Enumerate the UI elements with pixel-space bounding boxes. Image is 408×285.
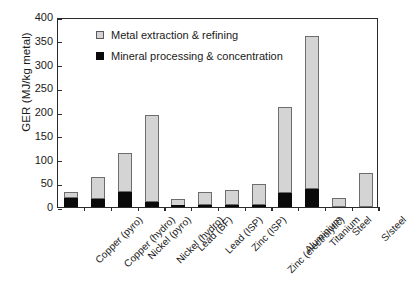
- legend-label-metal-extraction: Metal extraction & refining: [111, 29, 238, 41]
- y-tick-label: 150: [35, 130, 53, 142]
- y-tick-label: 400: [35, 11, 53, 23]
- x-tick-mark: [84, 207, 85, 211]
- y-tick-mark: [58, 209, 62, 210]
- y-tick-mark: [58, 66, 62, 67]
- bar-segment-metal-extraction: [198, 192, 212, 205]
- bar-segment-metal-extraction: [359, 173, 373, 207]
- bar-segment-metal-extraction: [145, 115, 159, 202]
- bar: [118, 153, 132, 207]
- plot-area: 050100150200250300350400 Metal extractio…: [57, 18, 378, 208]
- bar: [332, 198, 346, 207]
- bar-segment-metal-extraction: [332, 198, 346, 207]
- y-tick-label: 350: [35, 35, 53, 47]
- y-tick-mark: [58, 114, 62, 115]
- bar: [145, 115, 159, 207]
- x-tick-mark: [138, 207, 139, 211]
- y-tick-mark: [58, 185, 62, 186]
- y-tick-label: 250: [35, 82, 53, 94]
- bar: [91, 177, 105, 207]
- bar: [64, 192, 78, 207]
- bar: [171, 199, 185, 207]
- y-tick-mark: [58, 90, 62, 91]
- bar-segment-metal-extraction: [118, 153, 132, 192]
- x-tick-mark: [245, 207, 246, 211]
- bar-segment-metal-extraction: [278, 107, 292, 193]
- bar-segment-mineral-processing: [252, 205, 266, 207]
- x-tick-mark: [218, 207, 219, 211]
- bar-segment-mineral-processing: [145, 202, 159, 207]
- legend-item: Mineral processing & concentration: [96, 50, 283, 62]
- y-tick-mark: [58, 42, 62, 43]
- legend-swatch-mineral-processing-icon: [96, 52, 104, 60]
- bar-segment-metal-extraction: [225, 190, 239, 205]
- x-axis-label: S/steel: [379, 214, 408, 243]
- bar: [359, 173, 373, 207]
- legend-label-mineral-processing: Mineral processing & concentration: [111, 50, 283, 62]
- x-tick-mark: [325, 207, 326, 211]
- y-tick-label: 200: [35, 106, 53, 118]
- bar: [198, 192, 212, 207]
- legend-item: Metal extraction & refining: [96, 29, 283, 41]
- bar-segment-mineral-processing: [198, 205, 212, 207]
- legend-swatch-metal-extraction-icon: [96, 31, 104, 39]
- y-tick-label: 300: [35, 59, 53, 71]
- y-axis-title: GER (MJ/kg metal): [20, 2, 36, 162]
- x-tick-mark: [271, 207, 272, 211]
- bar: [305, 36, 319, 207]
- x-axis-label-group: Copper (pyro)Copper (hydro)Nickel (pyro)…: [0, 212, 400, 285]
- y-tick-label: 50: [41, 177, 53, 189]
- x-tick-mark: [191, 207, 192, 211]
- x-tick-mark: [378, 207, 379, 211]
- chart-legend: Metal extraction & refining Mineral proc…: [96, 29, 283, 71]
- x-tick-mark: [111, 207, 112, 211]
- x-tick-mark: [352, 207, 353, 211]
- bar: [252, 184, 266, 207]
- x-tick-mark: [298, 207, 299, 211]
- y-tick-mark: [58, 19, 62, 20]
- bar-segment-metal-extraction: [252, 184, 266, 204]
- bar: [225, 190, 239, 207]
- bar-segment-mineral-processing: [278, 193, 292, 207]
- bar-segment-metal-extraction: [305, 36, 319, 190]
- y-tick-mark: [58, 161, 62, 162]
- y-tick-label: 100: [35, 154, 53, 166]
- x-tick-mark: [164, 207, 165, 211]
- bar-segment-mineral-processing: [305, 189, 319, 207]
- bar: [278, 107, 292, 207]
- bar-segment-mineral-processing: [64, 198, 78, 207]
- bar-segment-mineral-processing: [118, 192, 132, 207]
- bar-segment-mineral-processing: [225, 205, 239, 207]
- bar-segment-mineral-processing: [171, 205, 185, 207]
- bar-segment-mineral-processing: [91, 199, 105, 207]
- y-tick-mark: [58, 137, 62, 138]
- bar-segment-metal-extraction: [91, 177, 105, 199]
